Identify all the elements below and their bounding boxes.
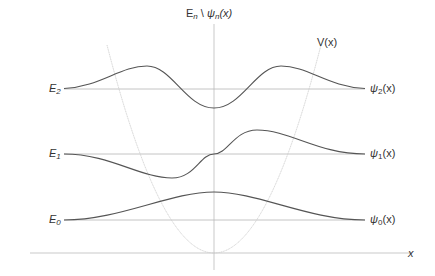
psi1-arg: (x) xyxy=(382,147,395,159)
y-axis-label-sep: \ xyxy=(198,7,207,19)
x-axis-label: x xyxy=(408,248,414,259)
y-axis-label-psi: ψ xyxy=(207,7,215,19)
psi2-arg: (x) xyxy=(382,82,395,94)
wavefunction-psi0 xyxy=(64,192,365,220)
wavefunction-psi2 xyxy=(64,66,365,108)
wavefunction-label-psi0: ψ0(x) xyxy=(370,214,395,227)
energy-label-e0-sub: 0 xyxy=(56,218,60,227)
psi2-symbol: ψ xyxy=(370,82,378,94)
energy-label-e0: E0 xyxy=(49,214,61,227)
psi1-symbol: ψ xyxy=(370,147,378,159)
diagram-canvas xyxy=(0,0,435,276)
psi0-arg: (x) xyxy=(382,213,395,225)
energy-label-e1-sub: 1 xyxy=(56,152,60,161)
y-axis-label-arg: (x) xyxy=(219,7,232,19)
wavefunction-label-psi2: ψ2(x) xyxy=(370,83,395,96)
potential-label: V(x) xyxy=(317,37,337,48)
energy-label-e1: E1 xyxy=(49,148,61,161)
wavefunction-label-psi1: ψ1(x) xyxy=(370,148,395,161)
energy-label-e2-sub: 2 xyxy=(56,87,60,96)
y-axis-label: En \ ψn(x) xyxy=(186,8,232,21)
psi0-symbol: ψ xyxy=(370,213,378,225)
energy-label-e2: E2 xyxy=(49,83,61,96)
